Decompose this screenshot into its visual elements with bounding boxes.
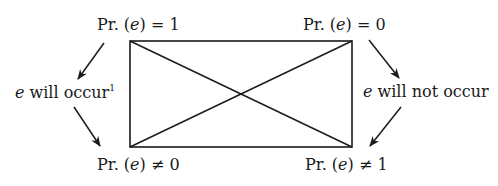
arrow-right-label-to-bottomright [370,107,401,146]
corner-label-bottom-left: Pr. (e) ≠ 0 [97,157,180,173]
event-variable: e [130,155,139,174]
arrow-topleft-to-left-label [78,43,104,79]
corner-relation: ) ≠ [348,155,378,174]
square-of-opposition-diagram: Pr. (e) = 1 Pr. (e) = 0 Pr. (e) ≠ 0 Pr. … [0,0,498,186]
corner-prefix: Pr. ( [97,15,130,34]
side-label-text: will occur [24,83,109,102]
corner-label-top-right: Pr. (e) = 0 [303,17,386,33]
event-variable: e [130,15,139,34]
corner-value: 1 [377,155,387,174]
side-label-right: e will not occur [363,84,489,100]
corner-relation: ) = [346,15,376,34]
corner-label-top-left: Pr. (e) = 1 [97,17,180,33]
corner-value: 0 [375,15,385,34]
event-variable: e [336,15,345,34]
corner-relation: ) = [140,15,170,34]
corner-prefix: Pr. ( [97,155,130,174]
corner-prefix: Pr. ( [303,15,336,34]
corner-relation: ) ≠ [140,155,170,174]
arrow-left-label-to-bottomleft [74,107,100,146]
side-label-left: e will occur1 [15,84,115,101]
footnote-marker: 1 [109,83,115,93]
corner-value: 0 [169,155,179,174]
event-variable: e [338,155,347,174]
corner-label-bottom-right: Pr. (e) ≠ 1 [305,157,388,173]
corner-prefix: Pr. ( [305,155,338,174]
arrow-topright-to-right-label [369,40,399,78]
corner-value: 1 [169,15,179,34]
side-label-text: will not occur [372,82,488,101]
